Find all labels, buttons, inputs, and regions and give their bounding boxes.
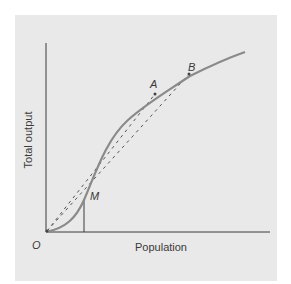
- point-m-label: M: [90, 190, 99, 202]
- point-b-label: B: [188, 61, 195, 73]
- point-a-marker: [154, 93, 157, 96]
- ray-o-b: [47, 74, 189, 231]
- total-output-curve: [46, 52, 245, 232]
- ray-o-a: [47, 94, 155, 231]
- y-axis-label: Total output: [22, 112, 34, 169]
- origin-label: O: [32, 239, 41, 251]
- x-axis-label: Population: [135, 241, 187, 253]
- point-a-label: A: [150, 78, 157, 90]
- origin-marker: [46, 230, 49, 233]
